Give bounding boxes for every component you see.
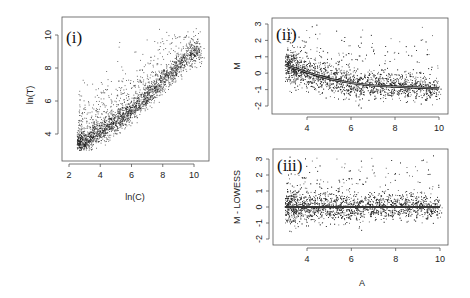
- scatter-point: [142, 94, 143, 95]
- scatter-point: [88, 136, 89, 137]
- scatter-point: [381, 213, 382, 214]
- scatter-point: [314, 214, 315, 215]
- scatter-point: [372, 83, 373, 84]
- scatter-point: [113, 111, 114, 112]
- scatter-point: [379, 82, 380, 83]
- scatter-point: [300, 210, 301, 211]
- scatter-point: [190, 42, 191, 43]
- scatter-point: [363, 211, 364, 212]
- scatter-point: [363, 213, 364, 214]
- scatter-point: [409, 200, 410, 201]
- scatter-point: [426, 201, 427, 202]
- scatter-point: [145, 102, 146, 103]
- scatter-point: [352, 212, 353, 213]
- scatter-point: [346, 215, 347, 216]
- scatter-point: [111, 99, 112, 100]
- scatter-point: [303, 209, 304, 210]
- scatter-point: [96, 124, 97, 125]
- scatter-point: [333, 208, 334, 209]
- scatter-point: [402, 213, 403, 214]
- scatter-point: [165, 73, 166, 74]
- scatter-point: [151, 81, 152, 82]
- scatter-point: [184, 65, 185, 66]
- scatter-point: [119, 47, 120, 48]
- scatter-point: [116, 114, 117, 115]
- scatter-point: [314, 212, 315, 213]
- scatter-point: [412, 204, 413, 205]
- scatter-point: [119, 112, 120, 113]
- scatter-point: [361, 215, 362, 216]
- scatter-point: [336, 197, 337, 198]
- scatter-point: [110, 126, 111, 127]
- scatter-point: [201, 57, 202, 58]
- scatter-point: [118, 81, 119, 82]
- scatter-point: [406, 210, 407, 211]
- scatter-point: [287, 209, 288, 210]
- scatter-point: [317, 200, 318, 201]
- scatter-point: [97, 116, 98, 117]
- scatter-point: [168, 75, 169, 76]
- scatter-point: [106, 128, 107, 129]
- scatter-point: [320, 210, 321, 211]
- scatter-point: [131, 88, 132, 89]
- scatter-point: [394, 208, 395, 209]
- scatter-point: [371, 91, 372, 92]
- scatter-point: [435, 210, 436, 211]
- scatter-point: [99, 132, 100, 133]
- scatter-point: [79, 115, 80, 116]
- scatter-point: [181, 59, 182, 60]
- scatter-point: [170, 53, 171, 54]
- scatter-point: [437, 197, 438, 198]
- scatter-point: [304, 75, 305, 76]
- scatter-point: [110, 135, 111, 136]
- scatter-point: [428, 86, 429, 87]
- scatter-point: [428, 89, 429, 90]
- scatter-point: [80, 137, 81, 138]
- scatter-point: [401, 211, 402, 212]
- scatter-point: [363, 216, 364, 217]
- scatter-point: [187, 59, 188, 60]
- scatter-point: [302, 74, 303, 75]
- scatter-point: [299, 37, 300, 38]
- scatter-point: [295, 81, 296, 82]
- scatter-point: [179, 67, 180, 68]
- scatter-point: [128, 94, 129, 95]
- scatter-point: [181, 66, 182, 67]
- scatter-point: [103, 91, 104, 92]
- scatter-point: [143, 84, 144, 85]
- scatter-point: [287, 200, 288, 201]
- scatter-point: [142, 108, 143, 109]
- scatter-point: [317, 51, 318, 52]
- scatter-point: [408, 92, 409, 93]
- scatter-point: [199, 49, 200, 50]
- scatter-point: [437, 215, 438, 216]
- scatter-point: [420, 205, 421, 206]
- scatter-points-i: [77, 28, 205, 151]
- scatter-point: [413, 202, 414, 203]
- scatter-point: [288, 62, 289, 63]
- scatter-point: [301, 72, 302, 73]
- scatter-point: [177, 65, 178, 66]
- scatter-point: [349, 204, 350, 205]
- scatter-point: [116, 106, 117, 107]
- scatter-point: [291, 69, 292, 70]
- scatter-point: [127, 121, 128, 122]
- scatter-point: [367, 77, 368, 78]
- scatter-point: [427, 49, 428, 50]
- scatter-point: [380, 83, 381, 84]
- scatter-point: [110, 118, 111, 119]
- scatter-point: [166, 76, 167, 77]
- scatter-point: [315, 58, 316, 59]
- scatter-point: [377, 204, 378, 205]
- scatter-point: [296, 214, 297, 215]
- scatter-point: [307, 205, 308, 206]
- scatter-point: [188, 61, 189, 62]
- panel-label-i: (i): [66, 28, 82, 47]
- scatter-point: [297, 54, 298, 55]
- scatter-point: [380, 198, 381, 199]
- scatter-point: [113, 104, 114, 105]
- scatter-point: [147, 103, 148, 104]
- scatter-point: [394, 90, 395, 91]
- scatter-point: [341, 210, 342, 211]
- scatter-point: [111, 94, 112, 95]
